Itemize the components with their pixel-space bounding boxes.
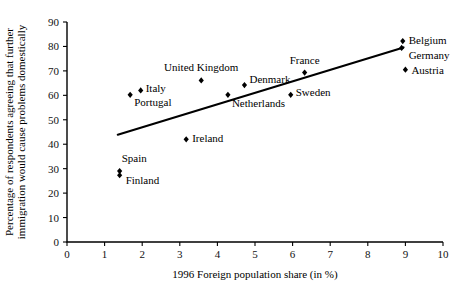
data-points: SpainFinlandPortugalItalyIrelandUnited K… <box>117 34 450 186</box>
data-point: Austria <box>403 64 444 76</box>
y-tick-label: 10 <box>48 212 60 224</box>
point-label: Belgium <box>409 34 447 46</box>
point-label: Portugal <box>134 96 171 108</box>
point-marker <box>138 87 143 93</box>
x-axis-title-text: 1996 Foreign population share (in %) <box>172 268 338 281</box>
point-label: Ireland <box>192 132 224 144</box>
point-marker <box>242 82 247 88</box>
point-label: Austria <box>411 64 444 76</box>
point-label: Germany <box>409 49 450 61</box>
point-marker <box>199 77 204 83</box>
y-tick-label: 70 <box>48 65 60 77</box>
y-axis-ticks: 0102030405060708090 <box>48 16 67 248</box>
x-tick-label: 0 <box>64 248 70 260</box>
y-tick-label: 90 <box>48 16 60 28</box>
point-label: Sweden <box>296 86 331 98</box>
point-label: Denmark <box>249 73 290 85</box>
point-marker <box>225 92 230 98</box>
x-tick-label: 9 <box>403 248 409 260</box>
x-tick-label: 2 <box>139 248 145 260</box>
chart-figure: Percentage of respondents agreeing that … <box>0 0 456 288</box>
y-tick-label: 30 <box>48 163 60 175</box>
point-marker <box>302 70 307 76</box>
y-tick-label: 0 <box>54 236 60 248</box>
data-point: Ireland <box>184 132 224 144</box>
point-marker <box>128 92 133 98</box>
y-axis-title: Percentage of respondents agreeing that … <box>3 24 27 239</box>
point-marker <box>184 136 189 142</box>
data-point: Netherlands <box>225 92 285 109</box>
data-point: Denmark <box>242 73 291 88</box>
point-marker <box>288 92 293 98</box>
y-tick-label: 80 <box>48 40 60 52</box>
y-tick-label: 40 <box>48 138 60 150</box>
data-point: Belgium <box>400 34 447 46</box>
point-marker <box>117 172 122 178</box>
data-point: Sweden <box>288 86 331 98</box>
x-tick-label: 5 <box>252 248 258 260</box>
y-tick-label: 20 <box>48 187 60 199</box>
data-point: France <box>290 54 320 76</box>
x-tick-label: 4 <box>215 248 221 260</box>
point-label: United Kingdom <box>164 61 239 73</box>
x-tick-label: 3 <box>177 248 183 260</box>
data-point: Finland <box>117 172 160 186</box>
y-axis-title-line: Percentage of respondents agreeing that … <box>3 28 15 236</box>
y-tick-label: 60 <box>48 89 60 101</box>
x-axis-title: 1996 Foreign population share (in %) <box>172 268 338 281</box>
y-axis-title-line: immigration would cause problems domesti… <box>15 24 27 239</box>
scatter-plot: Percentage of respondents agreeing that … <box>0 0 456 288</box>
point-marker <box>399 45 404 51</box>
x-tick-label: 7 <box>327 248 333 260</box>
x-tick-label: 10 <box>438 248 450 260</box>
point-label: Spain <box>122 152 148 164</box>
data-point: Germany <box>399 45 450 61</box>
point-label: France <box>290 54 320 66</box>
data-point: Spain <box>117 152 147 174</box>
y-tick-label: 50 <box>48 114 60 126</box>
x-tick-label: 8 <box>365 248 371 260</box>
data-point: Italy <box>138 82 166 94</box>
x-tick-label: 1 <box>102 248 108 260</box>
x-tick-label: 6 <box>290 248 296 260</box>
x-axis-ticks: 012345678910 <box>64 242 449 260</box>
point-label: Netherlands <box>232 97 285 109</box>
point-label: Italy <box>146 82 167 94</box>
point-marker <box>400 38 405 44</box>
data-point: United Kingdom <box>164 61 239 83</box>
point-marker <box>403 67 408 73</box>
point-label: Finland <box>126 174 160 186</box>
